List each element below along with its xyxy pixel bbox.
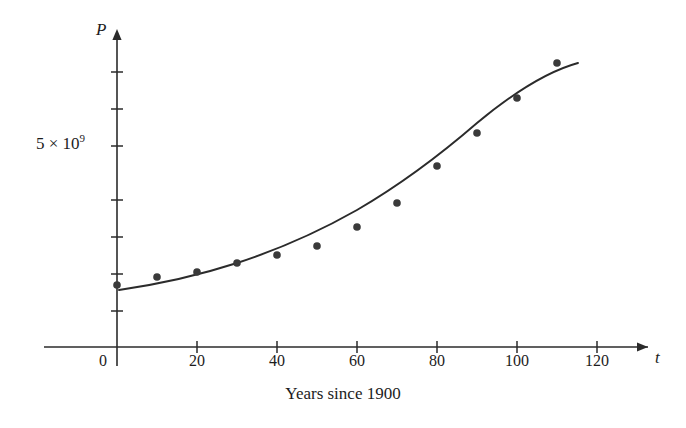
x-tick-label-20: 20 (181, 352, 213, 370)
data-point (513, 94, 521, 102)
data-point (233, 259, 241, 267)
data-point (553, 59, 561, 67)
data-point (473, 129, 481, 137)
data-point (353, 223, 361, 231)
data-point (433, 162, 441, 170)
x-axis (44, 342, 648, 351)
population-figure: P t 5 × 109 0 20 40 60 80 100 120 Years … (0, 0, 686, 428)
figure-caption: Years since 1900 (0, 384, 686, 404)
x-tick-label-100: 100 (496, 352, 538, 370)
x-tick-label-60: 60 (341, 352, 373, 370)
x-tick-label-0: 0 (93, 352, 113, 370)
data-point (313, 242, 321, 250)
x-tick-label-40: 40 (261, 352, 293, 370)
data-point (273, 251, 281, 259)
data-point (393, 199, 401, 207)
x-axis-label: t (655, 348, 660, 368)
data-point (113, 281, 121, 289)
y-axis-label: P (96, 20, 106, 40)
y-tick-label-5e9: 5 × 109 (36, 134, 85, 154)
y-axis-arrowhead (112, 29, 121, 40)
data-points (113, 59, 561, 289)
data-point (193, 268, 201, 276)
y-axis (112, 29, 121, 366)
exponential-fit-curve (119, 63, 578, 290)
y-tick-label-mantissa: 5 × 10 (36, 134, 80, 153)
data-point (153, 273, 161, 281)
x-tick-label-120: 120 (576, 352, 618, 370)
x-axis-arrowhead (637, 342, 648, 351)
x-tick-label-80: 80 (421, 352, 453, 370)
y-tick-label-exponent: 9 (80, 132, 86, 144)
